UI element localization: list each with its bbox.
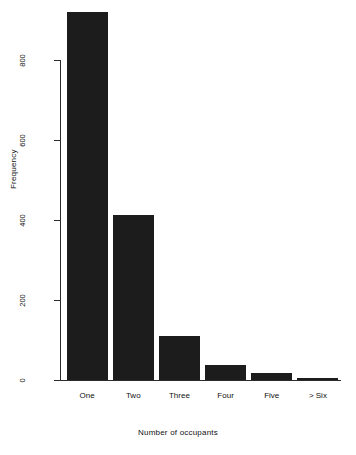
x-axis-title: Number of occupants <box>0 428 356 437</box>
bar-chart: Frequency 0 200 400 600 800 <box>0 0 356 455</box>
bar-two[interactable] <box>113 215 154 380</box>
bar-five[interactable] <box>251 373 292 380</box>
y-tick-label-text: 800 <box>17 54 26 67</box>
bar-three[interactable] <box>159 336 200 380</box>
plot-area: 0 200 400 600 800 One Two Three Four Fiv… <box>0 0 356 400</box>
y-tick-label: 800 <box>0 56 44 65</box>
bar-one[interactable] <box>67 12 108 380</box>
y-tick-label: 0 <box>0 376 44 385</box>
y-tick-label: 600 <box>0 136 44 145</box>
y-tick-mark <box>54 300 60 301</box>
y-tick-mark <box>54 380 60 381</box>
y-tick-mark <box>54 60 60 61</box>
y-axis-line <box>60 60 61 381</box>
y-tick-label-text: 200 <box>17 294 26 307</box>
y-tick-label-text: 0 <box>17 378 26 382</box>
x-axis-line <box>60 380 341 381</box>
y-tick-label-text: 400 <box>17 214 26 227</box>
y-tick-mark <box>54 140 60 141</box>
y-tick-mark <box>54 220 60 221</box>
y-tick-label: 200 <box>0 296 44 305</box>
x-tick-label-six: > Six <box>288 391 348 400</box>
bar-six[interactable] <box>297 378 338 380</box>
y-tick-label: 400 <box>0 216 44 225</box>
bar-four[interactable] <box>205 365 246 380</box>
y-tick-label-text: 600 <box>17 134 26 147</box>
